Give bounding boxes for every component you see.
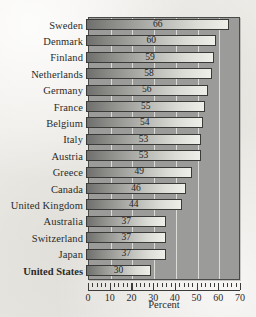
category-label: Japan [0,249,86,260]
bar-track: 58 [86,66,256,82]
bar-row: Germany56 [0,83,256,99]
bar: 66 [86,19,229,30]
axis-tick-minor [144,283,145,287]
bar-value-label: 44 [129,200,139,210]
bar-value-label: 54 [140,118,150,128]
axis-line [88,283,240,291]
bar: 53 [86,134,201,145]
category-label: United Kingdom [0,200,86,211]
bar: 54 [86,117,203,128]
axis-tick-major [240,283,241,290]
bar-track: 37 [86,230,256,246]
axis-tick-minor [214,283,215,287]
bar-track: 55 [86,99,256,115]
axis-tick-minor [210,283,211,287]
axis-tick-minor [149,283,150,287]
category-label: Finland [0,52,86,63]
category-label: United States [0,266,86,277]
axis-tick-minor [97,283,98,287]
category-label: Germany [0,85,86,96]
bar-track: 60 [86,33,256,49]
axis-tick-minor [166,283,167,287]
axis-tick-minor [105,283,106,287]
axis-tick-minor [231,283,232,287]
bar-row: Japan37 [0,247,256,263]
bar-track: 37 [86,247,256,263]
axis-tick-minor [205,283,206,287]
axis-tick-minor [192,283,193,287]
bar-value-label: 56 [142,85,152,95]
bar: 60 [86,35,216,46]
bar-value-label: 53 [139,150,149,160]
bar-row: United Kingdom44 [0,197,256,213]
bar-value-label: 37 [121,232,131,242]
bar-value-label: 46 [131,183,141,193]
axis-tick-major [175,283,176,290]
category-label: Austria [0,151,86,162]
bar-value-label: 59 [145,52,155,62]
axis-tick-minor [123,283,124,287]
bar-value-label: 60 [146,36,156,46]
bar-track: 53 [86,148,256,164]
bar-track: 56 [86,83,256,99]
axis-tick-major [153,283,154,290]
bar-row: Canada46 [0,181,256,197]
category-label: France [0,102,86,113]
bar-track: 46 [86,181,256,197]
axis-tick-minor [101,283,102,287]
axis-tick-minor [179,283,180,287]
bar-value-label: 66 [153,19,163,29]
axis-tick-minor [92,283,93,287]
bar-track: 44 [86,197,256,213]
bar: 56 [86,85,208,96]
bar-value-label: 37 [121,249,131,259]
axis-tick-major [88,283,89,290]
bar-value-label: 37 [121,216,131,226]
bar: 58 [86,68,212,79]
bar-track: 66 [86,17,256,33]
category-label: Australia [0,216,86,227]
axis-tick-minor [136,283,137,287]
category-label: Belgium [0,118,86,129]
bar-value-label: 30 [114,265,124,275]
bar-track: 49 [86,165,256,181]
axis-tick-major [110,283,111,290]
bar-row: Australia37 [0,214,256,230]
category-label: Sweden [0,20,86,31]
category-label: Canada [0,184,86,195]
axis-tick-minor [188,283,189,287]
bar-value-label: 58 [144,68,154,78]
axis-tick-minor [171,283,172,287]
axis-tick-minor [184,283,185,287]
category-label: Switzerland [0,233,86,244]
bar-track: 54 [86,115,256,131]
bar-row: Denmark60 [0,33,256,49]
category-label: Denmark [0,36,86,47]
bar: 37 [86,232,166,243]
bar: 37 [86,216,166,227]
bar-value-label: 55 [141,101,151,111]
axis-tick-minor [201,283,202,287]
bar: 53 [86,150,201,161]
bar-row: Finland59 [0,50,256,66]
bar-value-label: 53 [139,134,149,144]
bar-row: France55 [0,99,256,115]
axis-tick-minor [140,283,141,287]
category-label: Greece [0,167,86,178]
axis-tick-minor [223,283,224,287]
bar: 55 [86,101,205,112]
bar-row: Netherlands58 [0,66,256,82]
category-label: Netherlands [0,69,86,80]
bar-value-label: 49 [134,167,144,177]
bar-rows: Sweden66Denmark60Finland59Netherlands58G… [0,17,256,280]
bar: 49 [86,167,192,178]
axis-tick-minor [227,283,228,287]
bar: 30 [86,265,151,276]
bar-track: 53 [86,132,256,148]
bar: 37 [86,249,166,260]
axis-tick-minor [114,283,115,287]
bar-track: 37 [86,214,256,230]
bar-row: Greece49 [0,165,256,181]
axis-tick-major [131,283,132,290]
bar-row: Sweden66 [0,17,256,33]
